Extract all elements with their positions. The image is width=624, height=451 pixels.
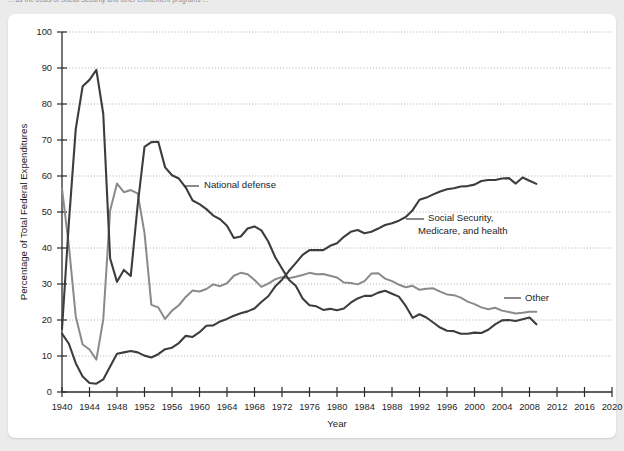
- x-tick-label-1964: 1964: [217, 402, 238, 412]
- chart-gridlines: [63, 32, 612, 356]
- x-tick-label-1944: 1944: [79, 402, 100, 412]
- x-tick-label-2012: 2012: [547, 402, 568, 412]
- x-tick-label-2016: 2016: [574, 402, 595, 412]
- y-tick-label-20: 20: [42, 315, 52, 325]
- y-tick-label-60: 60: [42, 171, 52, 181]
- x-tick-label-1940: 1940: [52, 402, 73, 412]
- page-root: ... as the costs of Social Security and …: [0, 0, 624, 451]
- series-line-national-defense: [62, 70, 536, 334]
- chart-x-tick-labels: 1940194419481952195619601964196819721976…: [52, 402, 623, 412]
- x-tick-label-1968: 1968: [244, 402, 265, 412]
- y-tick-label-50: 50: [42, 207, 52, 217]
- x-tick-label-1988: 1988: [382, 402, 403, 412]
- y-tick-label-40: 40: [42, 243, 52, 253]
- social-security-label-line-2: Medicare, and health: [418, 225, 508, 236]
- x-tick-label-1992: 1992: [409, 402, 430, 412]
- x-tick-label-2004: 2004: [492, 402, 513, 412]
- y-tick-label-70: 70: [42, 135, 52, 145]
- x-tick-label-2020: 2020: [602, 402, 623, 412]
- series-line-social-security-medicare-and-health: [62, 177, 536, 383]
- x-tick-label-2000: 2000: [464, 402, 485, 412]
- x-tick-label-2008: 2008: [519, 402, 540, 412]
- x-tick-label-1976: 1976: [299, 402, 320, 412]
- y-tick-label-80: 80: [42, 99, 52, 109]
- y-tick-label-10: 10: [42, 351, 52, 361]
- x-tick-label-1972: 1972: [272, 402, 293, 412]
- y-tick-label-100: 100: [36, 27, 52, 37]
- y-tick-label-90: 90: [42, 63, 52, 73]
- x-tick-label-1948: 1948: [107, 402, 128, 412]
- y-tick-label-30: 30: [42, 279, 52, 289]
- social-security-label-line-1: Social Security,: [428, 212, 493, 223]
- x-axis-title: Year: [327, 418, 347, 429]
- x-tick-label-1996: 1996: [437, 402, 458, 412]
- x-tick-label-1984: 1984: [354, 402, 375, 412]
- x-tick-label-1960: 1960: [189, 402, 210, 412]
- y-tick-label-0: 0: [47, 387, 52, 397]
- x-tick-label-1952: 1952: [134, 402, 155, 412]
- national-defense-label: National defense: [204, 179, 276, 190]
- chart-y-tick-labels: 0102030405060708090100: [36, 27, 52, 397]
- y-axis-title: Percentage of Total Federal Expenditures: [18, 124, 29, 301]
- chart-figure: 1940194419481952195619601964196819721976…: [0, 0, 624, 451]
- x-tick-label-1980: 1980: [327, 402, 348, 412]
- other-label: Other: [525, 292, 550, 303]
- x-tick-label-1956: 1956: [162, 402, 183, 412]
